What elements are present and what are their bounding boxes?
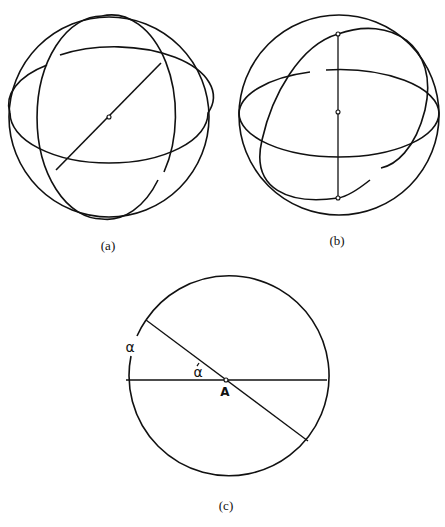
equator-ellipse-b-back <box>239 72 310 113</box>
meridian-ellipse-a <box>37 16 158 219</box>
cross-section-circle-c <box>129 276 329 476</box>
angle-alpha-label: α <box>193 364 202 380</box>
point-a <box>224 378 228 382</box>
equator-ellipse-a-back <box>9 65 47 113</box>
caption-c: (c) <box>219 498 233 513</box>
north-pole-b <box>336 32 340 36</box>
caption-a: (a) <box>101 238 115 253</box>
center-point-a <box>107 115 111 119</box>
arc-alpha-label: α <box>125 339 134 355</box>
sphere-diagrams-figure: (a) (b) α α A (c) <box>0 0 445 527</box>
point-a-label: A <box>220 385 230 399</box>
south-pole-b <box>336 196 340 200</box>
equator-ellipse-a <box>10 47 213 163</box>
caption-b: (b) <box>329 233 344 248</box>
panel-c: α α A (c) <box>125 276 329 513</box>
panel-b: (b) <box>239 15 439 248</box>
meridian-ellipse-a-back <box>102 15 175 172</box>
tilted-circle-b-back <box>260 34 370 200</box>
arc-alpha-c <box>137 320 146 336</box>
center-point-b <box>336 110 340 114</box>
panel-a: (a) <box>9 15 214 253</box>
